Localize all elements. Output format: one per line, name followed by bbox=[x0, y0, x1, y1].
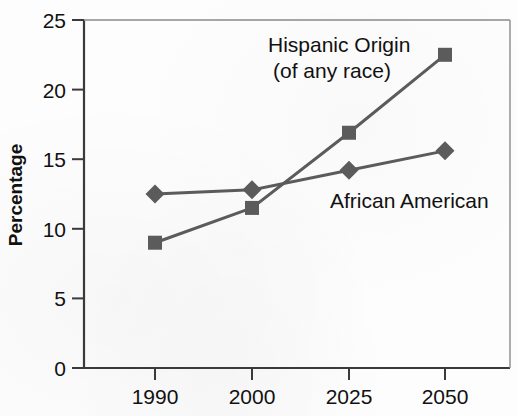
marker-diamond bbox=[146, 185, 165, 204]
annotation-hispanic-origin-line2: (of any race) bbox=[273, 59, 391, 82]
x-tick-label-1990: 1990 bbox=[132, 385, 179, 408]
y-axis-ticks bbox=[72, 20, 84, 368]
annotation-hispanic-origin-line1: Hispanic Origin bbox=[268, 33, 410, 56]
marker-square bbox=[148, 236, 162, 250]
annotation-african-american: African American bbox=[330, 189, 489, 212]
chart-container: 25 20 15 10 5 0 Percentage 1990 2000 202… bbox=[0, 0, 517, 416]
x-axis-ticks bbox=[155, 368, 445, 380]
marker-diamond bbox=[340, 161, 359, 180]
x-tick-label-2000: 2000 bbox=[229, 385, 276, 408]
marker-diamond bbox=[436, 141, 455, 160]
chart-svg: 25 20 15 10 5 0 Percentage 1990 2000 202… bbox=[0, 0, 517, 416]
marker-square bbox=[342, 126, 356, 140]
y-axis-title: Percentage bbox=[5, 144, 26, 246]
x-tick-label-2025: 2025 bbox=[326, 385, 373, 408]
y-tick-label-10: 10 bbox=[43, 218, 66, 241]
y-axis-tick-labels: 25 20 15 10 5 0 bbox=[43, 9, 66, 380]
marker-square bbox=[245, 201, 259, 215]
annotation-hispanic-origin: Hispanic Origin (of any race) bbox=[268, 33, 410, 82]
y-tick-label-25: 25 bbox=[43, 9, 66, 32]
y-tick-label-20: 20 bbox=[43, 79, 66, 102]
y-tick-label-5: 5 bbox=[54, 287, 66, 310]
y-tick-label-0: 0 bbox=[54, 357, 66, 380]
marker-diamond bbox=[243, 180, 262, 199]
series-line bbox=[155, 55, 445, 243]
marker-square bbox=[438, 48, 452, 62]
x-tick-label-2050: 2050 bbox=[422, 385, 469, 408]
y-tick-label-15: 15 bbox=[43, 148, 66, 171]
x-axis-tick-labels: 1990 2000 2025 2050 bbox=[132, 385, 469, 408]
